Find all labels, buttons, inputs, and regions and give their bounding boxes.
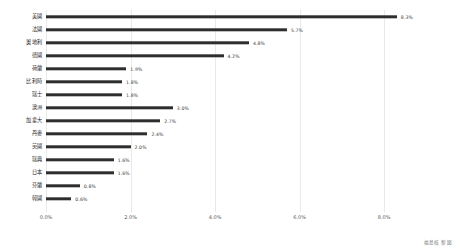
bar-value-label: 1.6% [118, 157, 130, 162]
x-tick-label: 8.0% [378, 214, 391, 220]
bar-value-label: 1.9% [130, 66, 142, 71]
bar [46, 132, 147, 135]
bar-row: 比利時1.8% [0, 75, 460, 88]
category-label: 英國 [0, 140, 42, 153]
bar-row: 英國2.0% [0, 140, 460, 153]
bar-row: 荷蘭1.9% [0, 62, 460, 75]
bar [46, 106, 173, 109]
bar-value-label: 4.8% [253, 40, 265, 45]
bar-track: 1.8% [46, 88, 460, 101]
category-label: 丹麥 [0, 127, 42, 140]
bar-track: 1.8% [46, 75, 460, 88]
bar-value-label: 3.0% [177, 105, 189, 110]
category-label: 法國 [0, 23, 42, 36]
bar [46, 93, 122, 96]
bar-value-label: 2.0% [135, 144, 147, 149]
bar-value-label: 1.6% [118, 170, 130, 175]
bar [46, 184, 80, 187]
bar [46, 171, 114, 174]
category-label: 奧地利 [0, 36, 42, 49]
bar-row: 瑞典1.6% [0, 153, 460, 166]
bar-value-label: 8.3% [401, 14, 413, 19]
bar-track: 0.8% [46, 179, 460, 192]
bar [46, 67, 126, 70]
bar-row: 澳洲3.0% [0, 101, 460, 114]
plot-area: 美國8.3%法國5.7%奧地利4.8%德國4.2%荷蘭1.9%比利時1.8%瑞士… [0, 10, 460, 212]
bar-row: 芬蘭0.8% [0, 179, 460, 192]
bar [46, 197, 71, 200]
category-label: 德國 [0, 49, 42, 62]
bar-row: 韓國0.6% [0, 192, 460, 205]
category-label: 加拿大 [0, 114, 42, 127]
bar-row: 德國4.2% [0, 49, 460, 62]
bar-track: 8.3% [46, 10, 460, 23]
bar-track: 5.7% [46, 23, 460, 36]
category-label: 美國 [0, 10, 42, 23]
bar-value-label: 2.4% [151, 131, 163, 136]
bar-track: 4.2% [46, 49, 460, 62]
bar [46, 158, 114, 161]
bar-row: 加拿大2.7% [0, 114, 460, 127]
bar-row: 日本1.6% [0, 166, 460, 179]
category-label: 瑞典 [0, 153, 42, 166]
bar-track: 1.6% [46, 166, 460, 179]
bar-rows: 美國8.3%法國5.7%奧地利4.8%德國4.2%荷蘭1.9%比利時1.8%瑞士… [0, 10, 460, 212]
bar-track: 2.7% [46, 114, 460, 127]
bar-track: 2.4% [46, 127, 460, 140]
bar-chart: 美國8.3%法國5.7%奧地利4.8%德國4.2%荷蘭1.9%比利時1.8%瑞士… [0, 0, 460, 249]
bar-row: 奧地利4.8% [0, 36, 460, 49]
bar-track: 2.0% [46, 140, 460, 153]
bar-value-label: 1.8% [126, 92, 138, 97]
category-label: 芬蘭 [0, 179, 42, 192]
chart-caption: 福島核 製図 [424, 239, 452, 245]
bar-track: 4.8% [46, 36, 460, 49]
category-label: 荷蘭 [0, 62, 42, 75]
category-label: 澳洲 [0, 101, 42, 114]
x-tick-label: 4.0% [209, 214, 222, 220]
bar-value-label: 0.8% [84, 183, 96, 188]
bar-value-label: 2.7% [164, 118, 176, 123]
bar-value-label: 4.2% [228, 53, 240, 58]
bar-value-label: 0.6% [75, 196, 87, 201]
x-axis: 0.0%2.0%4.0%6.0%8.0% [0, 214, 460, 228]
bar [46, 54, 224, 57]
x-tick-label: 0.0% [40, 214, 53, 220]
category-label: 日本 [0, 166, 42, 179]
bar-track: 3.0% [46, 101, 460, 114]
bar-row: 瑞士1.8% [0, 88, 460, 101]
bar-row: 法國5.7% [0, 23, 460, 36]
bar [46, 145, 131, 148]
bar-row: 美國8.3% [0, 10, 460, 23]
bar-row: 丹麥2.4% [0, 127, 460, 140]
bar [46, 80, 122, 83]
bar-track: 1.6% [46, 153, 460, 166]
category-label: 瑞士 [0, 88, 42, 101]
bar-track: 1.9% [46, 62, 460, 75]
bar [46, 119, 160, 122]
bar [46, 28, 287, 31]
bar-value-label: 1.8% [126, 79, 138, 84]
category-label: 比利時 [0, 75, 42, 88]
x-tick-label: 2.0% [124, 214, 137, 220]
x-tick-label: 6.0% [293, 214, 306, 220]
bar-track: 0.6% [46, 192, 460, 205]
bar-value-label: 5.7% [291, 27, 303, 32]
category-label: 韓國 [0, 192, 42, 205]
bar [46, 15, 397, 18]
bar [46, 41, 249, 44]
